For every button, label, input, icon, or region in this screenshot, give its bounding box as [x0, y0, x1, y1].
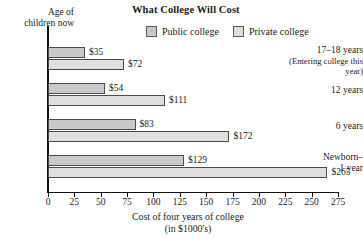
- x-tick-label: 250: [299, 197, 325, 207]
- private-swatch-icon: [233, 26, 244, 37]
- bar-private: [48, 95, 165, 106]
- bar-public: [48, 83, 105, 94]
- bar-public: [48, 155, 184, 166]
- y-axis-title-line1: Age of: [2, 7, 74, 18]
- y-axis-title-line2: children now: [2, 18, 74, 29]
- category-label: 12 years: [285, 85, 363, 96]
- category-label-sub: 1 year: [285, 163, 363, 174]
- bar-private: [48, 131, 229, 142]
- category-label-main: Newborn–: [285, 152, 363, 163]
- bar-value-label: $172: [233, 131, 252, 142]
- bar-chart: What College Will Cost Age of children n…: [0, 0, 363, 244]
- category-label: 6 years: [285, 121, 363, 132]
- x-tick-label: 200: [246, 197, 272, 207]
- bar-value-label: $35: [89, 47, 103, 58]
- legend-item-public: Public college: [146, 26, 219, 37]
- category-label: Newborn–1 year: [285, 152, 363, 173]
- x-tick-label: 225: [272, 197, 298, 207]
- category-label-main: 17–18 years: [285, 45, 363, 56]
- x-axis-line: [47, 192, 338, 194]
- public-swatch-icon: [146, 26, 157, 37]
- bar-value-label: $54: [109, 83, 123, 94]
- y-axis-title: Age of children now: [2, 7, 74, 29]
- x-tick-label: 275: [325, 197, 351, 207]
- x-tick-label: 25: [61, 197, 87, 207]
- bar-value-label: $83: [140, 119, 154, 130]
- chart-legend: Public college Private college: [146, 24, 309, 38]
- x-tick-label: 0: [35, 197, 61, 207]
- bar-public: [48, 47, 85, 58]
- x-tick-label: 50: [88, 197, 114, 207]
- bar-private: [48, 59, 124, 70]
- x-axis-title-line1: Cost of four years of college: [38, 211, 338, 223]
- x-axis-title-line2: (in $1000's): [38, 223, 338, 235]
- x-tick-label: 150: [193, 197, 219, 207]
- bar-value-label: $72: [128, 59, 142, 70]
- x-tick-label: 75: [114, 197, 140, 207]
- category-label: 17–18 years(Entering college this year): [285, 45, 363, 77]
- x-axis-title: Cost of four years of college (in $1000'…: [38, 211, 338, 235]
- bar-value-label: $129: [188, 155, 207, 166]
- chart-title: What College Will Cost: [132, 4, 322, 15]
- legend-item-private: Private college: [233, 26, 309, 37]
- legend-label-private: Private college: [249, 26, 309, 37]
- legend-label-public: Public college: [162, 26, 219, 37]
- category-label-main: 12 years: [285, 85, 363, 96]
- x-tick-label: 175: [220, 197, 246, 207]
- bar-public: [48, 119, 136, 130]
- category-label-main: 6 years: [285, 121, 363, 132]
- bar-value-label: $111: [169, 95, 187, 106]
- x-tick-label: 125: [167, 197, 193, 207]
- x-tick-label: 100: [140, 197, 166, 207]
- category-label-sub: (Entering college this year): [285, 56, 363, 77]
